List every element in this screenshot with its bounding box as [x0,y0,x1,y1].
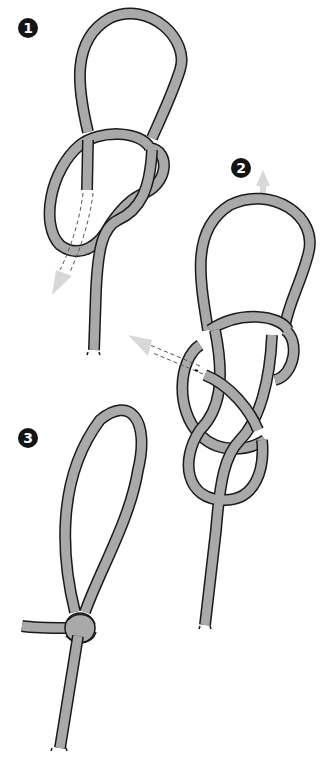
step-2-arrow-icon [128,335,152,356]
step-3-rope [22,410,142,751]
knot-diagram: 1 2 3 .o { fill: none; stroke: #1a1a1a; … [0,0,328,766]
step-2-rope [128,170,310,629]
knot-illustration: .o { fill: none; stroke: #1a1a1a; stroke… [0,0,328,766]
step-1-rope [50,14,182,355]
step-1-arrow-icon [52,270,72,295]
step-2-pull-arrow-icon [256,170,270,186]
